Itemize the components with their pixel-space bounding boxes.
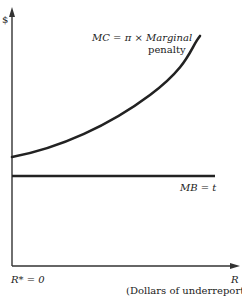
y-axis-arrow-icon bbox=[9, 7, 15, 17]
mb-label: MB = t bbox=[179, 182, 217, 193]
mc-label-line2: penalty bbox=[148, 44, 186, 55]
chart: $ MC = π × Marginal penalty MB = t R* = … bbox=[0, 0, 242, 296]
y-axis-label: $ bbox=[2, 14, 8, 25]
x-axis-arrow-icon bbox=[230, 263, 240, 269]
origin-label: R* = 0 bbox=[10, 274, 45, 285]
x-axis-sublabel: (Dollars of underreporting) bbox=[126, 285, 242, 296]
mc-label-line1: MC = π × Marginal bbox=[91, 32, 192, 43]
x-axis-label: R bbox=[230, 274, 239, 285]
